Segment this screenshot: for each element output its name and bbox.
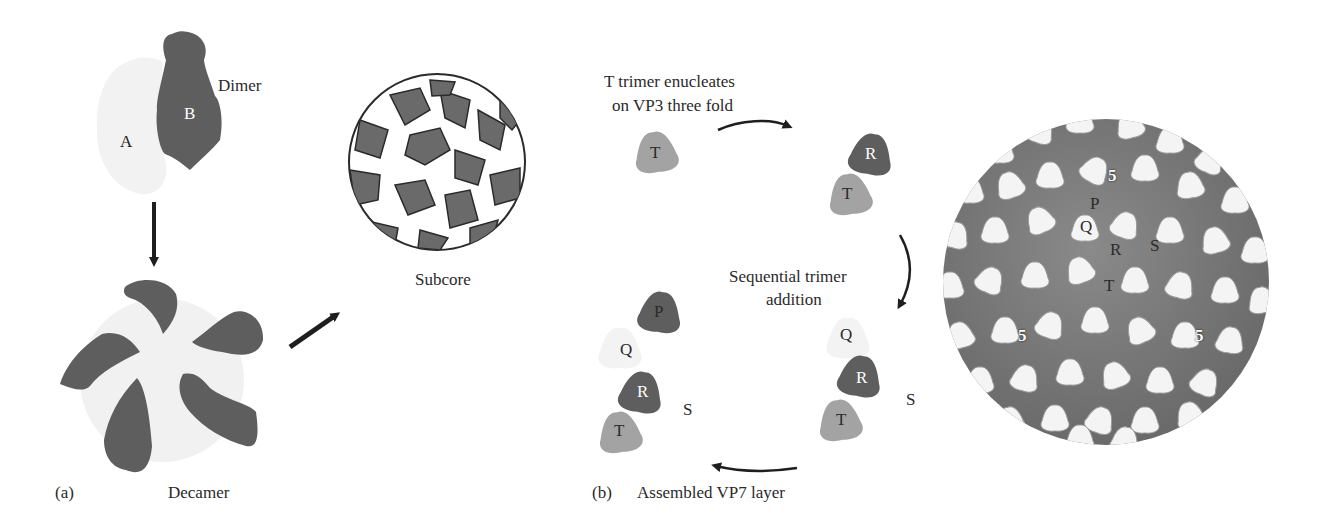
panel-a-label: (a) [55,483,74,503]
particle-r-label: R [1110,240,1121,260]
subunit-b-shape [157,31,222,170]
step3-caption: Assembled VP7 layer [637,483,785,503]
decamer-label: Decamer [168,483,229,503]
subunit-a-label: A [120,132,132,152]
trimer-t-step2-label: T [842,184,852,204]
subunit-b-label: B [184,104,195,124]
trimer-p-step4-label: P [654,302,663,322]
dimer-label: Dimer [218,76,261,96]
decamer-illustration [60,280,263,472]
subcore-illustration [349,74,525,250]
fivefold-left-label: 5 [1018,326,1027,346]
step1-caption-line1: T trimer enucleates [604,72,735,92]
trimer-r-step2-label: R [865,144,876,164]
particle-s-label: S [1150,236,1159,256]
particle-q-label: Q [1080,217,1092,237]
trimer-s-step4-label: S [683,400,692,420]
dimer-illustration [97,31,222,194]
fivefold-top-label: 5 [1108,166,1117,186]
arrow-step3-to-step4 [716,466,797,471]
subunit-a-shape [97,58,166,195]
arrow-step1-to-step2 [718,121,788,130]
panel-b-label: (b) [592,483,612,503]
step2-caption-line1: Sequential trimer [729,267,847,287]
trimer-t-step3-label: T [836,410,846,430]
trimer-r-step3-label: R [856,368,867,388]
subcore-label: Subcore [415,270,471,290]
step2-caption-line2: addition [766,290,822,310]
fivefold-right-label: 5 [1195,326,1204,346]
arrow-step2-to-step3 [900,235,910,305]
trimer-q-step4-label: Q [620,340,632,360]
particle-t-label: T [1104,276,1114,296]
trimer-t-step1-label: T [650,143,660,163]
trimer-q-step3-label: Q [840,325,852,345]
step1-caption-line2: on VP3 three fold [612,96,733,116]
trimer-t-step4-label: T [614,421,624,441]
trimer-s-step3-label: S [906,390,915,410]
particle-p-label: P [1090,194,1099,214]
trimer-r-step4-label: R [637,382,648,402]
arrow-decamer-to-subcore [290,315,336,347]
